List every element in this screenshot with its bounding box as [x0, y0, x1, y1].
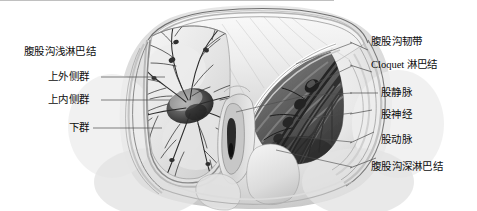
label-femoral-artery: 股动脉: [381, 134, 412, 145]
label-cloquet-node: Cloquet 淋巴结: [371, 59, 437, 70]
anatomical-illustration: [0, 0, 477, 211]
label-supero-lateral-group: 上外侧群: [48, 71, 89, 82]
label-inferior-group: 下群: [69, 122, 90, 133]
label-superficial-inguinal-nodes: 腹股沟浅淋巴结: [24, 46, 96, 57]
label-femoral-vein: 股静脉: [381, 87, 412, 98]
label-deep-inguinal-nodes: 腹股沟深淋巴结: [371, 161, 443, 172]
label-femoral-nerve: 股神经: [381, 109, 412, 120]
label-inguinal-ligament: 腹股沟韧带: [371, 36, 423, 47]
label-supero-medial-group: 上内侧群: [48, 94, 89, 105]
